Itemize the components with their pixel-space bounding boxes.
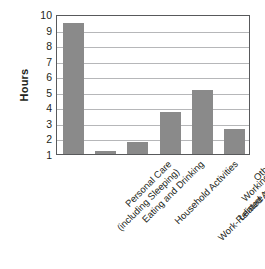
gridline [57,109,249,110]
y-axis-tick-label: 6 [46,72,52,83]
y-axis-tick-label: 1 [46,150,52,161]
bar-chart: Hours 10987654321 Personal Care(includin… [0,0,265,269]
bar[interactable] [95,151,116,154]
gridline [57,47,249,48]
y-axis-tick-label: 4 [46,103,52,114]
gridline [57,32,249,33]
gridline [57,63,249,64]
gridline [57,94,249,95]
plot-area [56,15,250,155]
bar[interactable] [127,142,148,154]
y-axis-tick-label: 8 [46,41,52,52]
bar[interactable] [224,129,245,154]
bar[interactable] [192,90,213,154]
y-axis-tick-label: 7 [46,56,52,67]
gridline [57,78,249,79]
y-axis-tick-label: 2 [46,134,52,145]
bar[interactable] [160,112,181,154]
y-axis-tick-label: 5 [46,88,52,99]
y-axis-tick-label: 10 [40,10,52,21]
gridline [57,140,249,141]
y-axis-tick-labels: 10987654321 [30,15,52,155]
y-axis-tick-label: 3 [46,119,52,130]
y-axis-tick-label: 9 [46,25,52,36]
x-axis-tick-label-line: Other [251,158,265,183]
gridline [57,125,249,126]
y-axis-title-text: Hours [18,69,30,102]
bar[interactable] [63,23,84,154]
